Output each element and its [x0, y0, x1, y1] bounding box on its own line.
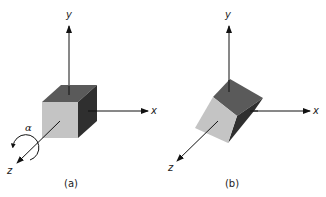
z-axis-a — [17, 121, 60, 163]
panel-b: y x z (b) — [167, 9, 319, 189]
panel-a: α y x z (a) — [6, 9, 157, 189]
y-axis-label-a: y — [65, 9, 73, 20]
y-axis-label-b: y — [224, 9, 232, 20]
cube-a-front-face — [42, 102, 78, 138]
z-axis-label-b: z — [167, 162, 174, 173]
rotation-angle-label: α — [25, 122, 32, 133]
x-axis-label-a: x — [150, 105, 157, 116]
x-axis-label-b: x — [312, 105, 319, 116]
rotation-arrow-icon — [13, 135, 39, 160]
caption-a: (a) — [64, 178, 78, 189]
rotation-diagram: α y x z (a) y x z (b) — [0, 0, 326, 197]
caption-b: (b) — [225, 178, 239, 189]
z-axis-label-a: z — [6, 165, 13, 176]
